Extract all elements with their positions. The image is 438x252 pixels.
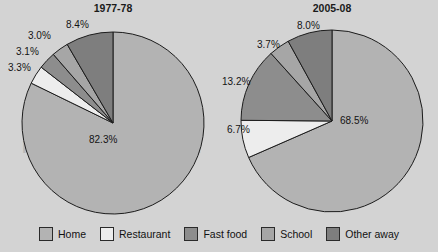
legend-item-fast-food[interactable]: Fast food — [184, 227, 247, 241]
pct-label-left-home: 82.3% — [89, 134, 117, 145]
pct-label-left-other-away: 8.4% — [66, 19, 89, 30]
pct-label-right-fast-food: 13.2% — [222, 76, 250, 87]
pct-label-left-fast-food: 3.1% — [16, 46, 39, 57]
pie-chart-right — [219, 0, 438, 224]
legend-swatch-icon — [39, 227, 53, 241]
legend-item-school[interactable]: School — [261, 227, 312, 241]
pct-label-right-home: 68.5% — [340, 115, 368, 126]
legend-swatch-icon — [261, 227, 275, 241]
legend-swatch-icon — [326, 227, 340, 241]
legend-item-home[interactable]: Home — [39, 227, 86, 241]
legend-swatch-icon — [100, 227, 114, 241]
legend-item-restaurant[interactable]: Restaurant — [100, 227, 170, 241]
pie-slices-right — [241, 30, 423, 212]
legend-label: Fast food — [203, 228, 247, 240]
pct-label-right-school: 3.7% — [257, 39, 280, 50]
legend-item-other-away[interactable]: Other away — [326, 227, 399, 241]
pct-label-right-other-away: 8.0% — [297, 20, 320, 31]
legend-label: School — [280, 228, 312, 240]
pct-label-left-restaurant: 3.3% — [8, 62, 31, 73]
legend-label: Restaurant — [119, 228, 170, 240]
legend-label: Other away — [345, 228, 399, 240]
pct-label-right-restaurant: 6.7% — [227, 124, 250, 135]
pie-chart-figure: FreeTestOnline.com 1977-78 82.3% 3.3% 3.… — [0, 0, 438, 252]
pie-slices-left — [22, 32, 204, 214]
legend: HomeRestaurantFast foodSchoolOther away — [0, 224, 438, 244]
pct-label-left-school: 3.0% — [28, 30, 51, 41]
legend-swatch-icon — [184, 227, 198, 241]
legend-label: Home — [58, 228, 86, 240]
